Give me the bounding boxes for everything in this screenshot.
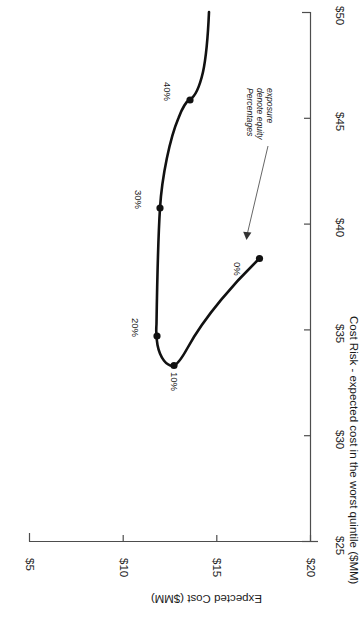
- x-axis-title: Cost Risk - expected cost in the worst q…: [346, 316, 360, 584]
- data-point-20pct: [153, 332, 160, 339]
- ytick-label-15: $15: [209, 558, 223, 577]
- data-point-10pct: [170, 362, 177, 369]
- point-label-30pct: 30%: [133, 190, 144, 209]
- xtick-label-40: $40: [332, 218, 346, 237]
- point-label-0pct: 0%: [232, 262, 243, 276]
- annotation-line-1: Percentages: [245, 88, 255, 136]
- ytick-label-5: $5: [22, 558, 36, 571]
- xtick-label-45: $45: [332, 112, 346, 131]
- data-point-0pct: [256, 255, 263, 262]
- cost-risk-axis-line: [302, 12, 318, 542]
- data-point-30pct: [156, 204, 163, 211]
- ytick-label-20: $20: [303, 558, 317, 577]
- frontier-curve: [156, 12, 259, 366]
- point-label-10pct: 10%: [169, 372, 180, 391]
- y-axis-title: Expected Cost ($MM): [151, 591, 262, 605]
- xtick-label-30: $30: [332, 430, 346, 449]
- xtick-label-35: $35: [332, 324, 346, 343]
- xtick-label-50: $50: [332, 6, 346, 25]
- point-label-20pct: 20%: [130, 318, 141, 337]
- expected-cost-axis-line: [29, 533, 311, 542]
- annotation-line-2: denote equity: [255, 88, 265, 140]
- chart-figure: $50 $45 $40 $35 $30 $25 Cost Risk - expe…: [0, 0, 362, 620]
- chart-canvas: [0, 0, 362, 620]
- ytick-label-10: $10: [116, 558, 130, 577]
- data-point-40pct: [186, 96, 193, 103]
- annotation-line-3: exposure: [265, 88, 275, 123]
- xtick-label-25: $25: [332, 536, 346, 555]
- point-label-40pct: 40%: [162, 82, 173, 101]
- annotation-leader: [243, 146, 268, 240]
